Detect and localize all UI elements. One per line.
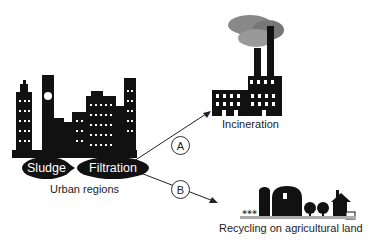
route-b-marker: B (171, 180, 190, 199)
farm-icon: ❀❀❀ (240, 186, 356, 219)
factory-icon (212, 15, 284, 116)
route-a-marker: A (171, 136, 190, 155)
route-a-arrowhead-icon (203, 111, 211, 118)
incineration-label: Incineration (222, 118, 279, 130)
recycling-label: Recycling on agricultural land (219, 222, 363, 234)
svg-text:❀❀❀: ❀❀❀ (242, 209, 257, 215)
route-a-line (134, 112, 209, 161)
filtration-step: Filtration (77, 157, 149, 179)
diagram-canvas: ❀❀❀ (0, 0, 380, 249)
city-skyline-icon (12, 75, 137, 158)
sludge-step: Sludge (22, 157, 71, 179)
urban-regions-label: Urban regions (50, 183, 119, 195)
